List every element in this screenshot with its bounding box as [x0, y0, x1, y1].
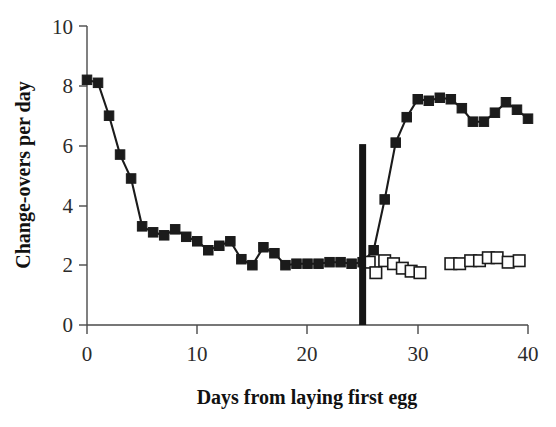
y-tick-label-8: 8 — [63, 74, 74, 98]
data-point-marker — [369, 246, 379, 256]
y-tick-label-10: 10 — [52, 15, 73, 39]
data-point-marker — [513, 255, 525, 267]
x-tick-label-10: 10 — [187, 342, 208, 366]
data-point-marker — [204, 246, 214, 256]
y-axis-title: Change-overs per day — [12, 81, 35, 268]
data-point-marker — [490, 108, 500, 118]
data-point-marker — [126, 174, 136, 184]
chart-figure: 0 2 4 6 8 10 0 10 20 30 40 Days from lay… — [0, 0, 556, 427]
y-axis-ticks — [79, 26, 87, 325]
y-tick-label-2: 2 — [63, 253, 74, 277]
chart-svg: 0 2 4 6 8 10 0 10 20 30 40 Days from lay… — [0, 0, 556, 427]
data-point-marker — [193, 237, 203, 247]
x-axis-title: Days from laying first egg — [197, 386, 418, 409]
data-point-marker — [115, 150, 125, 160]
x-axis-ticks — [87, 325, 528, 334]
data-point-marker — [435, 93, 445, 103]
x-tick-label-40: 40 — [518, 342, 539, 366]
data-point-marker — [137, 222, 147, 232]
data-point-marker — [468, 117, 478, 127]
data-point-marker — [413, 95, 423, 105]
data-point-marker — [292, 259, 302, 269]
experimental-manipulation-marker — [359, 144, 366, 325]
y-axis-tick-labels: 0 2 4 6 8 10 — [52, 15, 74, 337]
data-point-marker — [454, 258, 466, 270]
data-point-marker — [523, 114, 533, 124]
data-point-marker — [281, 260, 291, 270]
data-point-marker — [402, 112, 412, 122]
data-point-marker — [226, 237, 236, 247]
data-point-marker — [314, 259, 324, 269]
data-point-marker — [237, 254, 247, 264]
data-point-marker — [93, 78, 103, 88]
data-point-marker — [457, 103, 467, 113]
data-point-marker — [414, 267, 426, 279]
data-point-marker — [82, 75, 92, 85]
y-tick-label-4: 4 — [63, 194, 74, 218]
data-point-marker — [391, 138, 401, 148]
data-point-marker — [424, 96, 434, 106]
data-point-marker — [502, 256, 514, 268]
x-tick-label-0: 0 — [82, 342, 93, 366]
series-open-squares — [363, 252, 524, 278]
data-point-marker — [248, 260, 258, 270]
data-point-marker — [148, 228, 158, 238]
x-tick-label-30: 30 — [408, 342, 429, 366]
data-point-marker — [347, 259, 357, 269]
data-point-marker — [336, 257, 346, 267]
data-point-marker — [170, 225, 180, 235]
data-point-marker — [501, 98, 511, 108]
data-point-marker — [512, 105, 522, 115]
annotation-layer — [359, 144, 366, 325]
data-point-marker — [104, 111, 114, 121]
data-point-marker — [479, 117, 489, 127]
data-point-marker — [325, 257, 335, 267]
x-axis-tick-labels: 0 10 20 30 40 — [82, 342, 539, 366]
data-point-marker — [446, 95, 456, 105]
data-point-marker — [380, 195, 390, 205]
x-tick-label-20: 20 — [297, 342, 318, 366]
y-tick-label-0: 0 — [63, 313, 74, 337]
series-filled-squares — [82, 75, 533, 270]
y-tick-label-6: 6 — [63, 134, 74, 158]
data-point-marker — [491, 252, 503, 263]
data-point-marker — [181, 232, 191, 242]
data-point-marker — [159, 231, 169, 241]
data-point-marker — [215, 241, 225, 251]
data-point-marker — [303, 259, 313, 269]
series-layer — [82, 75, 533, 278]
data-point-marker — [259, 243, 269, 253]
data-point-marker — [370, 267, 382, 279]
data-point-marker — [270, 248, 280, 257]
